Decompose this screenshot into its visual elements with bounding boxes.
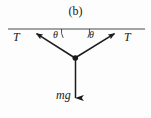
tension-left-label: T	[13, 31, 20, 43]
angle-left-label: θ	[53, 30, 58, 40]
junction-point	[73, 55, 79, 61]
angle-left-arc	[61, 29, 63, 38]
tension-right-vector	[75, 34, 115, 58]
free-body-diagram-figure: (b) T T θ θ mg	[0, 0, 151, 118]
panel-caption: (b)	[0, 5, 151, 17]
weight-label: mg	[56, 89, 71, 101]
angle-right-label: θ	[89, 30, 94, 40]
tension-right-label: T	[124, 31, 131, 43]
